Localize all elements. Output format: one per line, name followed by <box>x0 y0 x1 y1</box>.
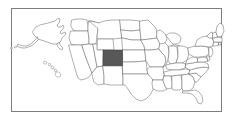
us-locator-map-figure <box>0 0 234 120</box>
state-north-dakota <box>120 20 140 31</box>
state-minnesota <box>140 20 157 40</box>
state-rhode-island <box>219 42 221 45</box>
state-new-jersey <box>209 47 213 57</box>
state-kentucky <box>166 63 186 70</box>
state-washington <box>71 19 88 31</box>
state-colorado-highlighted <box>103 50 123 66</box>
state-maine <box>216 23 224 37</box>
state-maryland <box>198 57 208 62</box>
state-alabama <box>172 75 182 90</box>
state-pennsylvania <box>188 46 209 57</box>
state-oklahoma <box>123 61 148 74</box>
state-kansas <box>123 50 146 62</box>
state-texas <box>123 74 154 101</box>
us-map-graphic <box>0 0 234 120</box>
state-connecticut <box>213 42 219 46</box>
state-new-mexico <box>103 66 123 85</box>
state-alaska <box>10 18 66 50</box>
state-hawaii <box>43 61 61 77</box>
state-oregon <box>69 31 89 45</box>
state-florida <box>183 90 203 104</box>
state-wyoming <box>97 39 114 50</box>
